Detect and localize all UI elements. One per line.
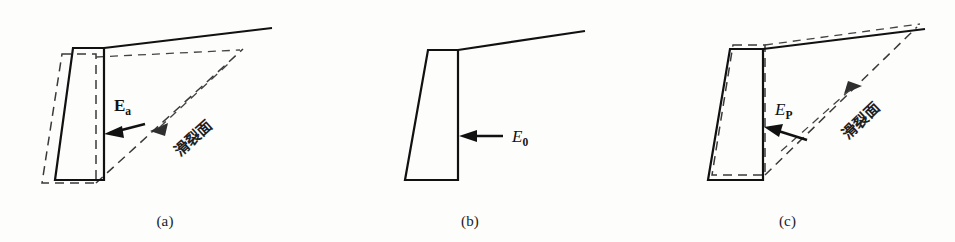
slip-surface-arrowhead-c — [844, 81, 862, 94]
panel-b-drawing: E0 — [300, 0, 640, 200]
panel-passive-earth-pressure: EP 滑裂面 (c) — [620, 0, 955, 242]
panel-caption-c: (c) — [620, 213, 955, 230]
dashed-original-ground-line-c — [765, 24, 920, 45]
slip-surface-arrow-shaft-a — [160, 64, 228, 127]
force-arrowhead-e0 — [459, 130, 477, 142]
panel-a-drawing: Ea 滑裂面 — [0, 0, 330, 200]
slip-surface-arrowhead-a — [150, 123, 168, 136]
slip-surface-label-c: 滑裂面 — [838, 99, 883, 143]
retaining-wall-outline-b — [405, 50, 458, 180]
ground-surface-line-c — [763, 29, 925, 49]
ground-surface-line-b — [458, 31, 585, 50]
panel-c-drawing: EP 滑裂面 — [620, 0, 955, 200]
force-arrowhead-ep — [764, 124, 783, 137]
panel-caption-b: (b) — [300, 213, 640, 230]
dashed-original-ground-line-a — [96, 50, 240, 57]
slip-surface-line-a — [96, 49, 243, 183]
panel-caption-a: (a) — [0, 213, 330, 230]
force-label-ep: EP — [774, 100, 792, 121]
slip-surface-label-a: 滑裂面 — [171, 116, 216, 159]
ground-surface-line-a — [104, 28, 272, 48]
force-label-ea: Ea — [114, 96, 131, 117]
retaining-wall-outline-c — [708, 49, 763, 180]
force-label-e0: E0 — [511, 127, 528, 148]
earth-pressure-states-figure: Ea 滑裂面 (a) E0 (b) — [0, 0, 955, 242]
slip-surface-arrow-shaft-c — [780, 90, 850, 152]
panel-active-earth-pressure: Ea 滑裂面 (a) — [0, 0, 330, 242]
panel-at-rest-earth-pressure: E0 (b) — [300, 0, 640, 242]
slip-surface-line-c — [765, 27, 917, 175]
force-arrowhead-ea — [104, 126, 124, 138]
